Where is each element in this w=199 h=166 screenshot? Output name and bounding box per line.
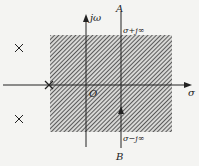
point-b-label: B — [115, 151, 123, 162]
jw-axis-label: jω — [88, 12, 101, 23]
pole-lower-left — [15, 115, 23, 123]
origin-label: O — [89, 88, 97, 99]
region-of-convergence — [50, 35, 172, 132]
jw-axis-arrow-icon — [83, 14, 89, 22]
s-plane-diagram: jω A σ+j∞ O σ σ−j∞ B — [0, 0, 199, 166]
lower-limit-label: σ−j∞ — [123, 134, 144, 143]
upper-limit-label: σ+j∞ — [123, 26, 144, 35]
point-a-label: A — [115, 3, 123, 14]
pole-upper-left — [15, 44, 23, 52]
sigma-axis-label: σ — [188, 87, 196, 98]
